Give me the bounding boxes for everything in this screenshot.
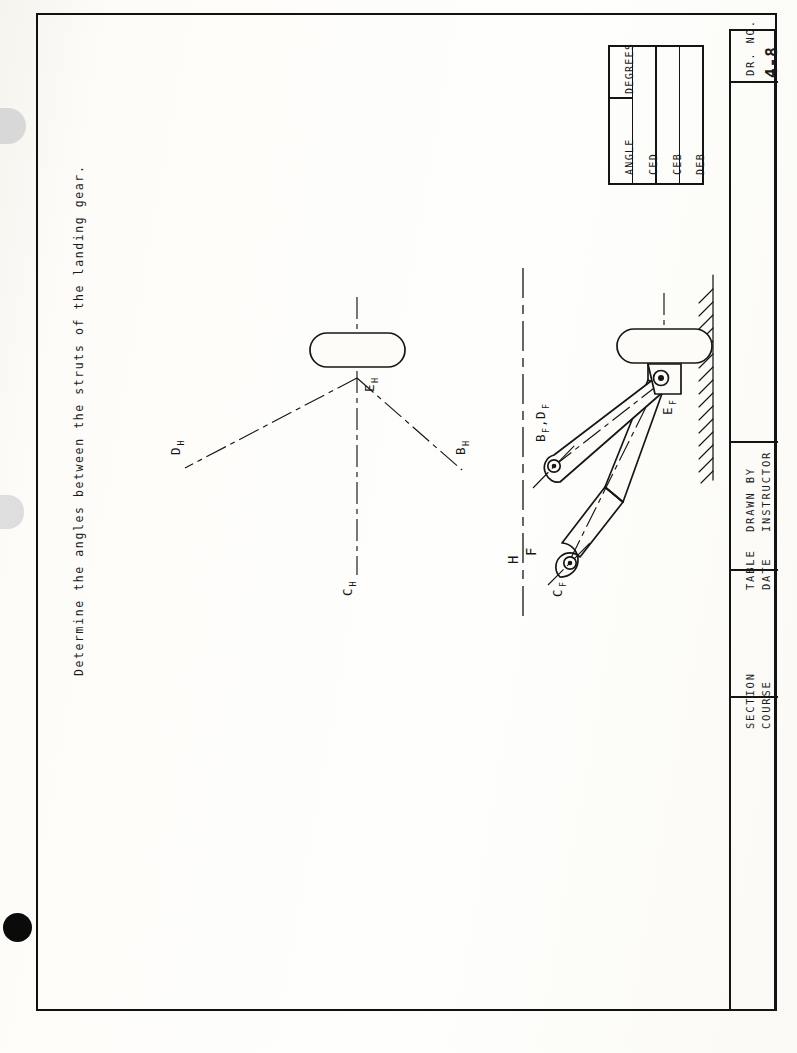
label-e-h: E H	[362, 377, 380, 392]
svg-text:E: E	[660, 407, 675, 415]
strut-ed-h	[185, 378, 357, 468]
svg-text:B: B	[453, 447, 468, 455]
landing-gear-drawing: .obj { fill:none; stroke:#161616; stroke…	[0, 0, 797, 1053]
svg-text:F: F	[523, 547, 539, 556]
svg-text:C: C	[550, 589, 565, 597]
svg-text:,D: ,D	[533, 411, 548, 427]
svg-text:F: F	[558, 581, 568, 587]
fold-label-h: H	[505, 555, 521, 564]
svg-text:H: H	[461, 440, 471, 446]
svg-text:C: C	[340, 588, 355, 596]
fold-label-f: F	[523, 547, 539, 556]
svg-text:D: D	[168, 447, 183, 455]
svg-text:F: F	[668, 399, 678, 405]
fold-line-h-f: H F	[505, 268, 539, 622]
wheel-f-view	[617, 329, 712, 363]
front-view-f: E F B F ,D F C F	[533, 275, 713, 597]
svg-text:H: H	[505, 555, 521, 564]
label-bd-f: B F ,D F	[533, 403, 551, 442]
strut-ec-f	[556, 380, 664, 577]
svg-text:F: F	[541, 403, 551, 409]
label-c-f: C F	[550, 581, 568, 597]
svg-text:B: B	[533, 434, 548, 442]
label-e-f: E F	[660, 399, 678, 415]
svg-text:H: H	[176, 440, 186, 446]
label-b-h: B H	[453, 440, 471, 455]
label-c-h: C H	[340, 581, 358, 596]
pin-c-f	[548, 541, 592, 585]
svg-text:H: H	[370, 377, 380, 383]
svg-text:H: H	[348, 581, 358, 587]
svg-text:E: E	[362, 384, 377, 392]
wall-hatching	[699, 275, 713, 483]
label-d-h: D H	[168, 440, 186, 455]
wheel-h-view	[310, 333, 405, 367]
drawing-sheet: Determine the angles between the struts …	[0, 0, 797, 1053]
top-view-h: E H D H B H C H	[168, 297, 471, 596]
svg-text:F: F	[541, 427, 551, 433]
